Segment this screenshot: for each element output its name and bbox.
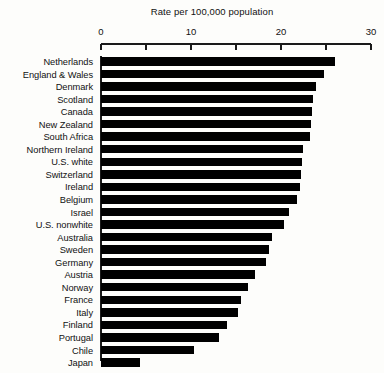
bar xyxy=(101,258,266,266)
x-tick-mark xyxy=(325,44,326,50)
bar xyxy=(101,270,255,278)
x-tick-label: 0 xyxy=(98,26,103,37)
bar-series xyxy=(101,56,371,370)
x-axis: 0102030 xyxy=(101,26,371,52)
category-label: Portugal xyxy=(0,332,97,345)
category-label: Chile xyxy=(0,345,97,358)
bar-row xyxy=(101,81,371,94)
bar xyxy=(101,158,302,166)
category-label: Norway xyxy=(0,282,97,295)
bar xyxy=(101,296,241,304)
bar xyxy=(101,321,227,329)
bar xyxy=(101,95,313,103)
x-tick-mark xyxy=(100,44,101,50)
x-tick-mark xyxy=(190,44,191,50)
bar xyxy=(101,233,272,241)
bar xyxy=(101,57,335,65)
bar xyxy=(101,183,300,191)
category-label: Canada xyxy=(0,106,97,119)
bar-row xyxy=(101,282,371,295)
bar-row xyxy=(101,106,371,119)
bar xyxy=(101,145,303,153)
category-label: Sweden xyxy=(0,244,97,257)
x-tick-label: 30 xyxy=(366,26,377,37)
category-label: Finland xyxy=(0,319,97,332)
bar-row xyxy=(101,94,371,107)
bar xyxy=(101,220,284,228)
category-label: Japan xyxy=(0,357,97,370)
bar-row xyxy=(101,156,371,169)
bar-row xyxy=(101,219,371,232)
bar-row xyxy=(101,332,371,345)
bar xyxy=(101,358,140,366)
plot-area xyxy=(101,56,371,364)
category-label: England & Wales xyxy=(0,69,97,82)
bar xyxy=(101,82,316,90)
category-label: Belgium xyxy=(0,194,97,207)
category-label: Northern Ireland xyxy=(0,144,97,157)
bar-chart: Rate per 100,000 population 0102030 Neth… xyxy=(0,0,384,373)
chart-title: Rate per 100,000 population xyxy=(0,6,384,17)
bar-row xyxy=(101,181,371,194)
category-label: Australia xyxy=(0,232,97,245)
bar xyxy=(101,120,311,128)
bar xyxy=(101,170,301,178)
bar-row xyxy=(101,319,371,332)
bar xyxy=(101,195,297,203)
bar-row xyxy=(101,345,371,358)
bar xyxy=(101,333,219,341)
x-tick-mark xyxy=(145,44,146,50)
bar-row xyxy=(101,194,371,207)
bar-row xyxy=(101,244,371,257)
x-tick-mark xyxy=(235,44,236,50)
category-labels: NetherlandsEngland & WalesDenmarkScotlan… xyxy=(0,56,97,364)
category-label: Italy xyxy=(0,307,97,320)
bar-row xyxy=(101,69,371,82)
bar-row xyxy=(101,307,371,320)
category-label: Denmark xyxy=(0,81,97,94)
category-label: Netherlands xyxy=(0,56,97,69)
bar-row xyxy=(101,294,371,307)
bar-row xyxy=(101,119,371,132)
bar xyxy=(101,132,310,140)
x-tick-label: 10 xyxy=(186,26,197,37)
bar xyxy=(101,245,269,253)
bar-row xyxy=(101,207,371,220)
category-label: Israel xyxy=(0,207,97,220)
bar xyxy=(101,107,312,115)
category-label: Ireland xyxy=(0,181,97,194)
x-tick-mark xyxy=(280,44,281,50)
bar-row xyxy=(101,232,371,245)
category-label: U.S. nonwhite xyxy=(0,219,97,232)
bar xyxy=(101,346,194,354)
category-label: Austria xyxy=(0,269,97,282)
bar-row xyxy=(101,56,371,69)
bar-row xyxy=(101,257,371,270)
bar-row xyxy=(101,169,371,182)
category-label: Switzerland xyxy=(0,169,97,182)
x-tick-label: 20 xyxy=(276,26,287,37)
category-label: South Africa xyxy=(0,131,97,144)
bar-row xyxy=(101,357,371,370)
category-label: New Zealand xyxy=(0,119,97,132)
category-label: Germany xyxy=(0,257,97,270)
bar xyxy=(101,208,289,216)
bar-row xyxy=(101,269,371,282)
category-label: France xyxy=(0,294,97,307)
category-label: Scotland xyxy=(0,94,97,107)
bar xyxy=(101,283,248,291)
bar xyxy=(101,308,238,316)
bar xyxy=(101,70,324,78)
category-label: U.S. white xyxy=(0,156,97,169)
bar-row xyxy=(101,144,371,157)
bar-row xyxy=(101,131,371,144)
x-tick-mark xyxy=(370,44,371,50)
